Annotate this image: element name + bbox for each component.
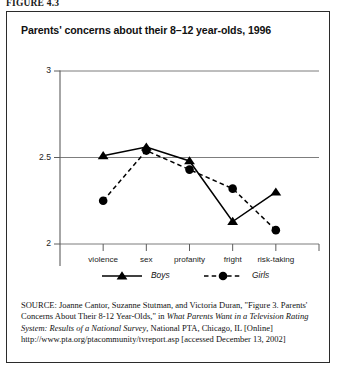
x-axis-label-sex: sex [140,255,153,264]
y-axis-label-2.5: 2.5 [39,152,51,162]
legend-label-girls: Girls [252,270,270,280]
gridlines-group [54,71,319,244]
source-note: SOURCE: Joanne Cantor, Suzanne Stutman, … [21,300,319,346]
data-point-girls-profanity [185,165,194,174]
data-point-boys-risk-taking [270,187,281,195]
data-point-girls-risk-taking [272,226,281,235]
source-prefix: SOURCE: [21,300,57,310]
legend-label-boys: Boys [151,270,170,280]
figure-box: Parents' concerns about their 8–12 year-… [6,11,330,363]
y-axis-label-2: 2 [46,238,51,248]
data-series-group [98,142,281,234]
x-axis-labels-group: violencesexprofanityfrightrisk-taking [88,255,294,264]
data-point-girls-violence [99,196,108,205]
data-point-girls-sex [142,146,151,155]
y-axis-label-3: 3 [46,65,51,75]
figure-label: FIGURE 4.3 [6,0,59,8]
y-axis-labels-group: 22.53 [39,65,51,248]
x-axis-label-profanity: profanity [174,255,206,264]
chart-legend: BoysGirls [102,270,270,280]
x-tick-marks-group [103,244,319,251]
legend-marker-girls [219,272,228,281]
x-axis-label-fright: fright [224,255,243,264]
x-axis-label-violence: violence [88,255,118,264]
data-point-girls-fright [228,184,237,193]
x-axis-label-risk-taking: risk-taking [257,255,294,264]
